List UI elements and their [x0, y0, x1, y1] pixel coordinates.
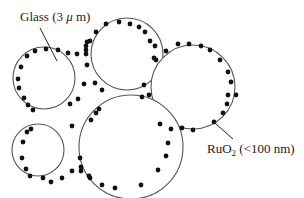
glass-particle-top-left [13, 47, 75, 109]
glass-particle-bottom-left [12, 124, 64, 176]
glass-particle-bottom-middle [79, 95, 183, 198]
glass-label: Glass (3 μ m) [20, 9, 90, 24]
ruo2-label: RuO2 (<100 nm) [207, 141, 295, 158]
glass-ruo2-schematic: Glass (3 μ m) RuO2 (<100 nm) [0, 0, 304, 198]
ruo2-leader-line [216, 124, 233, 139]
